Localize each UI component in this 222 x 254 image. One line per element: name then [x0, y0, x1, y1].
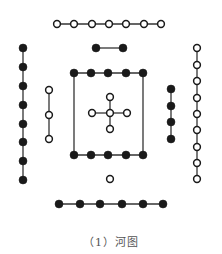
yin-dot-icon: [167, 135, 175, 143]
yin-dot-icon: [70, 69, 78, 77]
yang-dot-icon: [124, 110, 131, 117]
yin-dot-icon: [104, 69, 112, 77]
yang-dot-icon: [158, 21, 165, 28]
yang-dot-icon: [194, 95, 201, 102]
yang-dot-icon: [194, 62, 201, 69]
yin-dot-icon: [118, 200, 126, 208]
yang-dot-icon: [46, 136, 53, 143]
yin-dot-icon: [76, 200, 84, 208]
yin-dot-icon: [55, 200, 63, 208]
yin-dot-icon: [167, 102, 175, 110]
figure-caption: （1）河图: [0, 233, 222, 249]
yin-dot-icon: [87, 151, 95, 159]
yang-dot-icon: [123, 21, 130, 28]
yang-dot-icon: [71, 21, 78, 28]
yin-dot-icon: [167, 118, 175, 126]
yang-dot-icon: [54, 21, 61, 28]
yang-dot-icon: [107, 110, 114, 117]
bottom-1-yang-group: [107, 176, 114, 183]
yang-dot-icon: [89, 21, 96, 28]
yin-dot-icon: [19, 63, 27, 71]
yin-dot-icon: [19, 120, 27, 128]
center-cross-5-yang-group: [89, 94, 131, 133]
yin-dot-icon: [167, 85, 175, 93]
yin-dot-icon: [19, 44, 27, 52]
yang-dot-icon: [46, 87, 53, 94]
yang-dot-icon: [107, 176, 114, 183]
yin-dot-icon: [122, 151, 130, 159]
yin-dot-icon: [19, 138, 27, 146]
yin-dot-icon: [139, 200, 147, 208]
yin-dot-icon: [87, 69, 95, 77]
hetu-diagram: [0, 0, 222, 254]
yang-dot-icon: [46, 112, 53, 119]
yang-dot-icon: [194, 176, 201, 183]
yang-dot-icon: [107, 94, 114, 101]
yang-dot-icon: [107, 126, 114, 133]
yin-dot-icon: [19, 82, 27, 90]
right-9-yang-group: [194, 45, 201, 183]
yin-dot-icon: [139, 151, 147, 159]
top-7-yang-group: [54, 21, 165, 28]
yin-dot-icon: [139, 69, 147, 77]
yang-dot-icon: [194, 160, 201, 167]
yin-dot-icon: [19, 157, 27, 165]
yin-dot-icon: [119, 44, 127, 52]
yin-dot-icon: [96, 200, 104, 208]
yin-dot-icon: [92, 44, 100, 52]
yin-dot-icon: [122, 69, 130, 77]
yang-dot-icon: [194, 144, 201, 151]
yin-dot-icon: [19, 101, 27, 109]
yin-dot-icon: [104, 151, 112, 159]
yang-dot-icon: [89, 110, 96, 117]
yin-dot-icon: [70, 151, 78, 159]
yang-dot-icon: [106, 21, 113, 28]
dot-groups: [19, 21, 200, 208]
yang-dot-icon: [194, 111, 201, 118]
yin-dot-icon: [19, 176, 27, 184]
yang-dot-icon: [194, 127, 201, 134]
yin-dot-icon: [159, 200, 167, 208]
yang-dot-icon: [194, 45, 201, 52]
yang-dot-icon: [141, 21, 148, 28]
yang-dot-icon: [194, 78, 201, 85]
